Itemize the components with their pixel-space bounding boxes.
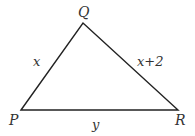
vertex-label-p: P <box>8 112 19 128</box>
vertex-label-r: R <box>174 112 186 128</box>
vertex-label-q: Q <box>78 4 90 20</box>
side-label-pr: y <box>91 117 100 132</box>
side-label-qr: x+2 <box>137 54 164 69</box>
side-label-pq: x <box>33 54 41 69</box>
triangle-diagram: Q P R x x+2 y <box>0 0 195 136</box>
